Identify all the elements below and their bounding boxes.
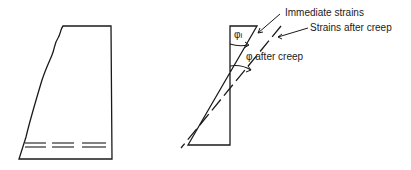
leader-creep [278,28,308,37]
leader-immediate [258,14,280,33]
label-immediate-strains: Immediate strains [285,8,364,18]
strain-profile [181,14,308,148]
label-phi-after-creep: φ after creep [246,52,303,62]
label-strains-after-creep: Strains after creep [310,23,392,33]
reinforcement-bars [25,143,106,147]
phi-subscript: i [240,31,242,40]
label-phi-i: φi [234,30,242,40]
column-section [19,26,112,159]
